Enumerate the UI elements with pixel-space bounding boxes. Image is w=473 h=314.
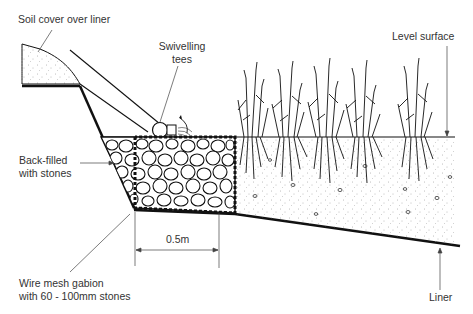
gabion-label: Wire mesh gabion with 60 - 100mm stones	[19, 277, 130, 302]
back-filled-line1: Back-filled	[19, 154, 72, 167]
swivelling-tees-leader	[160, 66, 178, 122]
dimension-label: 0.5m	[166, 233, 189, 246]
gravel-substrate	[235, 138, 455, 245]
gabion-line2: with 60 - 100mm stones	[19, 290, 130, 303]
back-filled-label: Back-filled with stones	[19, 154, 72, 179]
swivelling-tees-line2: tees	[152, 53, 212, 66]
soil-cover-leader	[38, 30, 52, 52]
soil-cover-label: Soil cover over liner	[18, 13, 110, 26]
level-surface-label: Level surface	[392, 30, 454, 43]
liner-label: Liner	[429, 291, 452, 304]
soil-cover	[22, 44, 80, 86]
back-filled-line2: with stones	[19, 167, 72, 180]
swivelling-tees-line1: Swivelling	[152, 40, 212, 53]
swivelling-tee	[153, 115, 193, 138]
level-surface-arrowhead	[445, 131, 449, 136]
gabion	[101, 137, 235, 213]
swivelling-tees-label: Swivelling tees	[152, 40, 212, 65]
gabion-leader	[70, 214, 130, 272]
gabion-line1: Wire mesh gabion	[19, 277, 130, 290]
liner-arrowhead	[438, 248, 442, 253]
